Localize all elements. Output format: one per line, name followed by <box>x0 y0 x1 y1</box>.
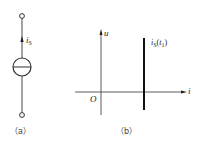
i-axis-arrow <box>181 91 187 94</box>
origin-label: O <box>90 95 97 104</box>
current-label: iS <box>26 36 32 48</box>
top-terminal <box>20 14 25 19</box>
i-axis-label: i <box>188 87 191 96</box>
u-axis-arrow <box>100 29 103 35</box>
u-axis-label: u <box>104 29 109 38</box>
current-subscript: S <box>29 40 32 46</box>
circuit-diagram <box>0 0 200 148</box>
line-label: iS(t1) <box>151 38 167 50</box>
caption-a: （a） <box>10 128 31 136</box>
current-direction-arrow <box>20 36 23 42</box>
caption-b: （b） <box>116 128 137 136</box>
bottom-terminal <box>20 113 25 118</box>
current-source-circuit <box>13 14 31 118</box>
close-paren: ) <box>164 38 167 47</box>
